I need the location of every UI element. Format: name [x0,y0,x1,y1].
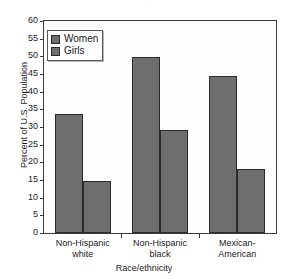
x-category-label-line: white [40,249,126,260]
bar-women-2 [209,76,237,233]
legend-item-women[interactable]: Women [51,33,98,45]
x-category-label-1: Non-Hispanicblack [117,238,203,259]
chart-title-line-2: United States, 2007–2008 [0,0,288,2]
x-category-label-line: black [117,249,203,260]
legend-item-girls[interactable]: Girls [51,45,98,57]
legend-label-women: Women [64,34,98,44]
x-category-label-line: Mexican- [194,238,280,249]
legend-swatch-girls [51,47,60,56]
x-category-label-2: Mexican-American [194,238,280,259]
bar-women-0 [55,114,83,233]
x-axis-title: Race/ethnicity [0,263,288,273]
bar-girls-0 [83,181,111,233]
y-tick-label: 60 [12,16,38,25]
legend-label-girls: Girls [64,46,85,56]
y-tick-label: 10 [12,193,38,202]
x-category-label-line: Non-Hispanic [117,238,203,249]
y-axis-title: Percent of U.S. Population [19,40,29,190]
x-category-label-0: Non-Hispanicwhite [40,238,126,259]
chart-title: United States, 2007–2008 [0,0,288,2]
y-tick-label: 5 [12,210,38,219]
legend-swatch-women [51,35,60,44]
x-category-label-line: American [194,249,280,260]
bar-women-1 [132,57,160,233]
bar-girls-1 [160,130,188,233]
chart-legend: Women Girls [47,30,103,61]
bar-girls-2 [237,169,265,233]
x-category-label-line: Non-Hispanic [40,238,126,249]
y-tick-label: 0 [12,228,38,237]
